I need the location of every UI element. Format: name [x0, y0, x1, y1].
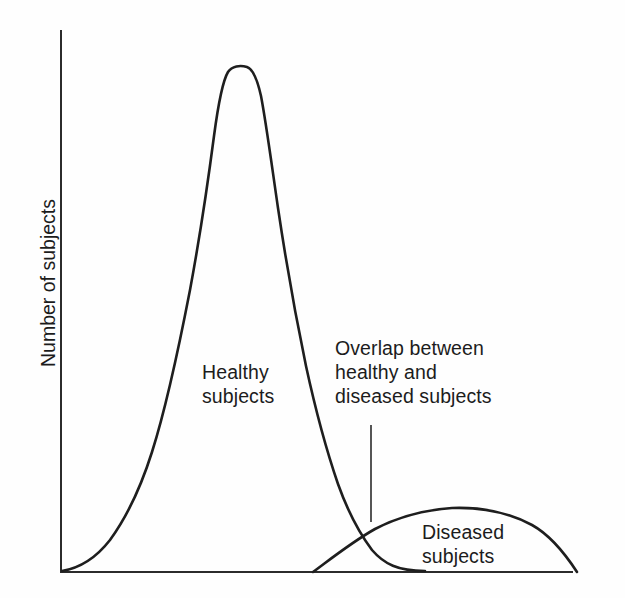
- chart-canvas: [0, 0, 625, 598]
- distribution-overlap-figure: Number of subjects Healthy subjects Over…: [0, 0, 625, 598]
- healthy-subjects-label: Healthy subjects: [202, 360, 274, 408]
- overlap-annotation-label: Overlap between healthy and diseased sub…: [335, 336, 492, 408]
- y-axis-title: Number of subjects: [37, 183, 59, 383]
- diseased-subjects-label: Diseased subjects: [422, 520, 504, 568]
